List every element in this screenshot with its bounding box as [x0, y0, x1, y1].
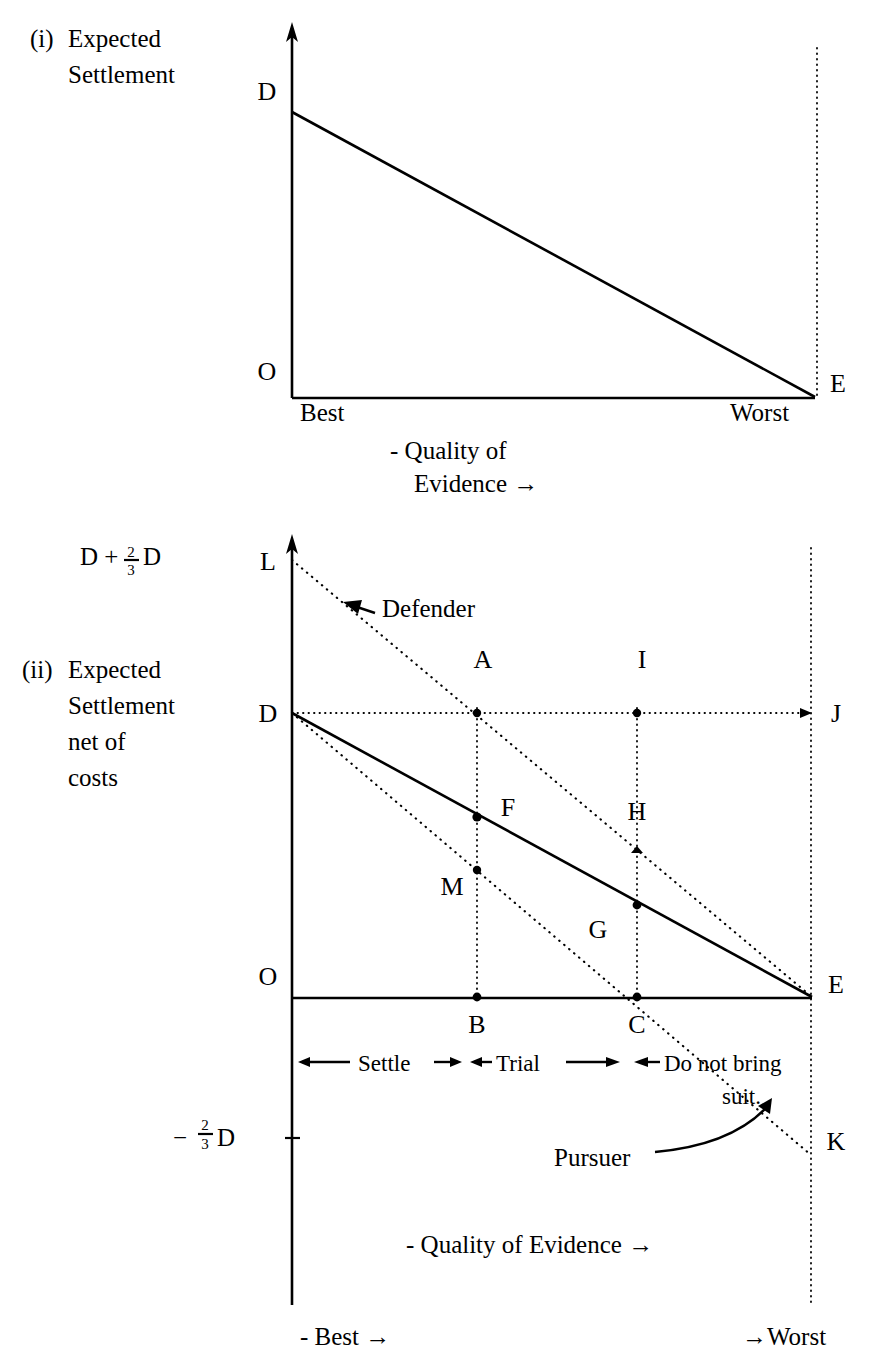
defender-arrowhead-icon: [343, 600, 362, 614]
donotbring-arrow-left-head-icon: [634, 1057, 648, 1067]
point-H: [631, 846, 643, 853]
panel-ii-label-B: B: [468, 1010, 485, 1039]
defender-label: Defender: [382, 595, 476, 622]
panel-ii-label-D: D: [259, 699, 278, 728]
trial-arrow-left-head-icon: [470, 1057, 482, 1067]
panel-ii-label-F: F: [501, 793, 515, 822]
point-B: [473, 993, 482, 1002]
point-C: [633, 993, 642, 1002]
point-F: [472, 812, 481, 821]
panel-ii-caption-line-4: costs: [68, 764, 118, 791]
panel-i-settlement-line: [292, 112, 815, 397]
panel-ii-top-value-numerator: 2: [127, 544, 135, 560]
panel-ii-label-L: L: [260, 547, 276, 576]
point-A: [473, 709, 481, 717]
point-I: [633, 709, 641, 717]
panel-ii-neg-value-suffix: D: [217, 1124, 235, 1151]
panel-ii-neg-value-denominator: 3: [201, 1136, 209, 1152]
panel-ii-label-best: - Best →: [300, 1323, 390, 1350]
panel-ii-regions: Settle Trial Do not bring suit.: [298, 1051, 782, 1109]
defender-annotation: Defender: [343, 595, 476, 622]
panel-ii-neg-value: − 2 3 D: [173, 1117, 235, 1152]
region-label-settle: Settle: [358, 1051, 410, 1076]
panel-i-label-O: O: [258, 357, 277, 386]
pursuer-arrow-curve: [655, 1108, 766, 1152]
panel-i-number: (i): [30, 25, 54, 53]
panel-i-x-caption-line-1: - Quality of: [390, 437, 507, 464]
panel-ii-label-G: G: [589, 915, 608, 944]
point-M: [473, 866, 481, 874]
panel-ii-label-A: A: [474, 645, 493, 674]
panel-i: (i) Expected Settlement D O E Best Worst…: [30, 22, 846, 497]
panel-ii-label-I: I: [638, 645, 647, 674]
panel-i-label-worst: Worst: [730, 399, 789, 426]
panel-i-label-E: E: [830, 369, 846, 398]
settle-arrow-right-head-icon: [450, 1057, 462, 1067]
panel-ii-top-value: D + 2 3 D: [80, 543, 161, 578]
figure-canvas: (i) Expected Settlement D O E Best Worst…: [0, 0, 873, 1360]
region-label-do-not-bring: Do not bring: [664, 1051, 782, 1076]
pursuer-label: Pursuer: [554, 1144, 631, 1171]
panel-i-caption-line-1: Expected: [68, 25, 162, 52]
panel-ii-label-E: E: [828, 970, 844, 999]
trial-arrow-right-head-icon: [606, 1057, 620, 1067]
panel-ii-caption-line-3: net of: [68, 728, 126, 755]
region-label-trial: Trial: [496, 1051, 540, 1076]
panel-ii-label-K: K: [827, 1127, 846, 1156]
region-label-do-not-bring-line2: suit.: [722, 1084, 761, 1109]
panel-i-x-caption-line-2: Evidence →: [414, 470, 538, 497]
panel-ii-net-settlement-line: [292, 713, 812, 997]
panel-ii-label-O: O: [259, 962, 278, 991]
panel-i-label-best: Best: [300, 399, 345, 426]
panel-ii-neg-value-numerator: 2: [201, 1117, 209, 1133]
panel-ii-x-caption: - Quality of Evidence →: [406, 1231, 653, 1258]
panel-ii-top-value-prefix: D +: [80, 543, 118, 570]
panel-ii-neg-value-prefix: −: [173, 1124, 187, 1151]
panel-ii-label-H: H: [628, 797, 647, 826]
panel-ii-label-C: C: [628, 1010, 645, 1039]
panel-ii-top-value-denominator: 3: [127, 562, 135, 578]
panel-ii-caption-line-1: Expected: [68, 656, 162, 683]
panel-ii: D + 2 3 D (ii) Expected Settlement net o…: [22, 534, 846, 1350]
panel-ii-label-worst: →Worst: [742, 1323, 826, 1350]
panel-ii-top-value-suffix: D: [143, 543, 161, 570]
panel-ii-label-J: J: [831, 699, 841, 728]
panel-i-label-D: D: [258, 77, 277, 106]
panel-ii-caption-line-2: Settlement: [68, 692, 175, 719]
panel-ii-number: (ii): [22, 656, 53, 684]
point-G: [633, 901, 642, 910]
panel-ii-label-M: M: [440, 872, 463, 901]
panel-i-caption-line-2: Settlement: [68, 61, 175, 88]
panel-ii-defender-line: [292, 560, 812, 997]
settle-arrow-left-head-icon: [298, 1057, 310, 1067]
